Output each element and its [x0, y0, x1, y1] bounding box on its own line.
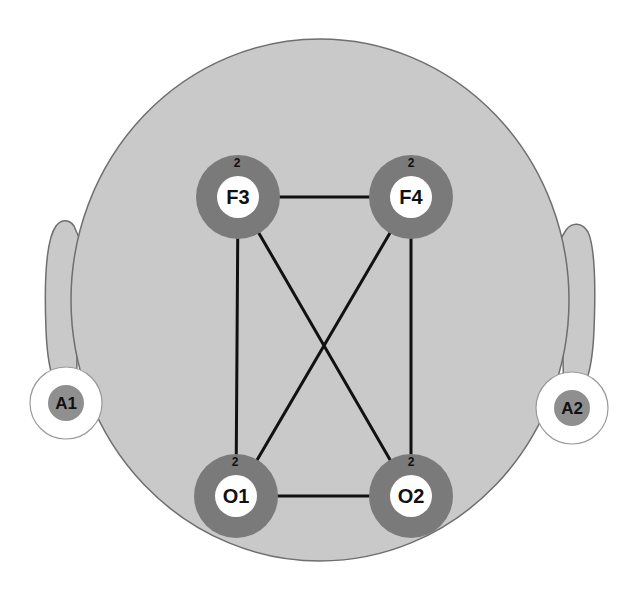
head-outline — [71, 39, 569, 561]
electrode-f4[interactable]: F4 2 — [369, 155, 453, 239]
connection-f3-o1 — [236, 197, 238, 496]
reference-electrode-a1[interactable]: A1 — [30, 367, 102, 439]
electrode-o1[interactable]: O1 2 — [194, 454, 278, 538]
electrode-count: 2 — [234, 156, 241, 170]
reference-label: A1 — [55, 394, 77, 413]
electrode-count: 2 — [408, 156, 415, 170]
electrode-label: O2 — [398, 485, 425, 507]
electrode-label: F4 — [399, 186, 423, 208]
reference-label: A2 — [561, 399, 583, 418]
electrode-o2[interactable]: O2 2 — [369, 454, 453, 538]
reference-electrode-a2[interactable]: A2 — [536, 372, 608, 444]
eeg-montage-diagram: F3 2 F4 2 O1 2 O2 2 A1 A2 — [0, 0, 640, 591]
electrode-label: F3 — [226, 186, 249, 208]
electrode-f3[interactable]: F3 2 — [196, 155, 280, 239]
electrode-count: 2 — [232, 455, 239, 469]
electrode-count: 2 — [408, 455, 415, 469]
electrode-label: O1 — [223, 485, 250, 507]
